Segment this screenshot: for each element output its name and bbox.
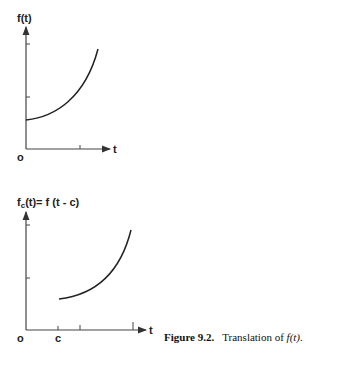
bottom-chart: fc(t)= f (t - c) t o c [17, 196, 153, 344]
figure-number: Figure 9.2. [164, 331, 214, 343]
bottom-x-label: t [149, 324, 153, 336]
caption-math: f(t) [287, 331, 300, 343]
bottom-c-label: c [55, 332, 61, 344]
top-chart: f(t) t o [17, 12, 117, 163]
bottom-origin-label: o [17, 332, 24, 344]
top-y-label: f(t) [17, 12, 32, 24]
bottom-y-label: fc(t)= f (t - c) [17, 196, 80, 210]
caption-end: . [300, 331, 303, 343]
top-curve-f [26, 49, 98, 120]
top-origin-label: o [17, 151, 24, 163]
top-x-label: t [113, 143, 117, 155]
bottom-curve-fc [59, 230, 131, 299]
figure-caption: Figure 9.2.Translation of f(t). [164, 331, 303, 343]
caption-text: Translation of [222, 331, 286, 343]
figure-canvas: f(t) t o fc(t)= f (t - c) t o c [0, 0, 338, 367]
